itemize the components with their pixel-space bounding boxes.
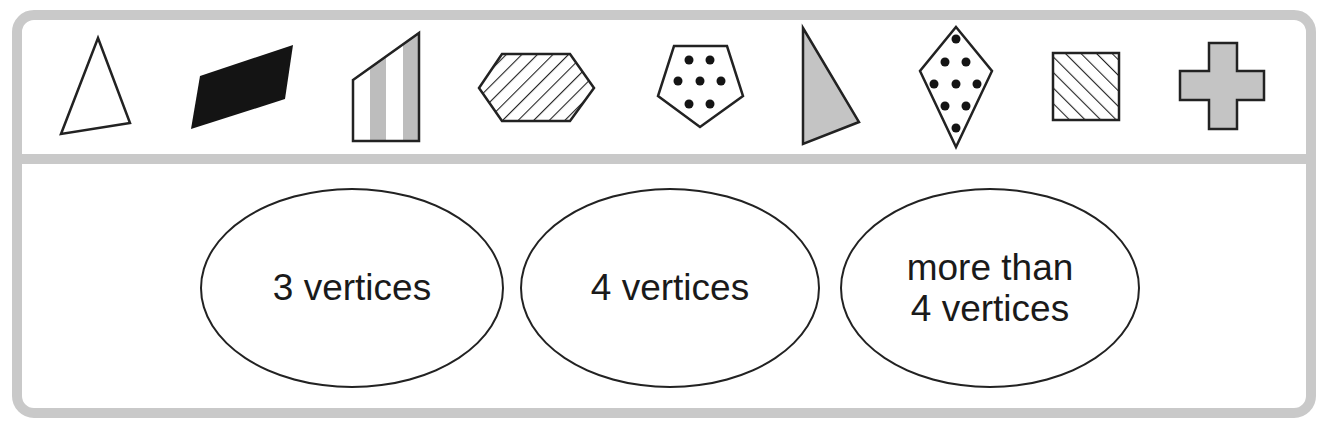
triangle-outline-shape[interactable] bbox=[61, 38, 130, 134]
category-label-line2: 4 vertices bbox=[907, 288, 1074, 329]
category-more-than-4-vertices[interactable]: more than 4 vertices bbox=[840, 188, 1140, 388]
category-3-vertices[interactable]: 3 vertices bbox=[200, 188, 504, 388]
square-hatched-shape[interactable] bbox=[1053, 53, 1119, 120]
category-label: 4 vertices bbox=[591, 267, 749, 308]
quadrilateral-striped-shape[interactable] bbox=[353, 30, 419, 142]
pentagon-dotted-shape[interactable] bbox=[658, 46, 743, 127]
hexagon-hatched-shape[interactable] bbox=[479, 54, 594, 121]
category-label-line1: more than bbox=[907, 247, 1074, 288]
category-label: 3 vertices bbox=[273, 267, 431, 308]
kite-dotted-shape[interactable] bbox=[920, 27, 992, 147]
triangle-gray-shape[interactable] bbox=[803, 28, 859, 144]
parallelogram-black-shape[interactable] bbox=[191, 45, 293, 129]
cross-gray-shape[interactable] bbox=[1180, 43, 1264, 129]
shapes-row bbox=[0, 0, 1328, 160]
category-4-vertices[interactable]: 4 vertices bbox=[520, 188, 820, 388]
